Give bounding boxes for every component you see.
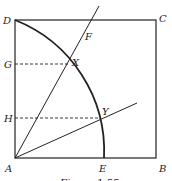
label-c: C — [159, 13, 167, 24]
line-ay — [15, 103, 137, 158]
label-h: H — [3, 113, 13, 124]
figure-caption: Figure 1.55 — [59, 177, 119, 181]
label-f: F — [84, 31, 93, 42]
label-a: A — [4, 163, 12, 174]
label-d: D — [2, 15, 11, 26]
label-g: G — [4, 59, 12, 70]
geometry-diagram: D C F G X H Y A E B Figure 1.55 — [0, 0, 172, 181]
label-x: X — [71, 57, 80, 68]
label-b: B — [158, 163, 166, 174]
label-e: E — [98, 163, 107, 174]
